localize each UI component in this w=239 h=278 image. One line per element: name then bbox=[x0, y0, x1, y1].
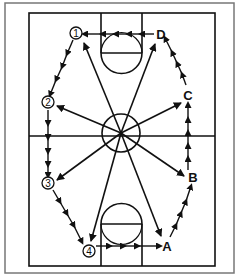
pass-to-D bbox=[121, 44, 155, 133]
court bbox=[29, 13, 215, 266]
bottom-key-arc bbox=[101, 203, 142, 224]
player-B: B bbox=[188, 170, 197, 185]
bottom-key-arc-lower bbox=[101, 224, 142, 244]
svg-text:2: 2 bbox=[45, 97, 51, 108]
player-4: 4 bbox=[83, 245, 95, 257]
svg-text:4: 4 bbox=[86, 246, 92, 257]
player-3: 3 bbox=[42, 177, 54, 189]
court-diagram: 1 2 3 4 A B C D bbox=[0, 0, 239, 278]
svg-text:3: 3 bbox=[45, 178, 51, 189]
dribble-1-to-2 bbox=[67, 40, 73, 54]
dribble-A-to-B bbox=[170, 225, 176, 237]
pass-to-3 bbox=[57, 133, 121, 180]
court-boundary bbox=[29, 13, 215, 266]
dribble-3-to-4 bbox=[53, 190, 60, 202]
svg-text:1: 1 bbox=[73, 28, 79, 39]
pass-to-B bbox=[121, 133, 184, 176]
player-D: D bbox=[156, 27, 165, 42]
player-A: A bbox=[162, 239, 172, 254]
top-key-arc-upper bbox=[101, 33, 142, 54]
player-C: C bbox=[183, 88, 193, 103]
dribble-C-to-D bbox=[182, 74, 186, 85]
top-key-arc bbox=[101, 53, 142, 74]
player-1: 1 bbox=[70, 27, 82, 39]
player-2: 2 bbox=[42, 96, 54, 108]
